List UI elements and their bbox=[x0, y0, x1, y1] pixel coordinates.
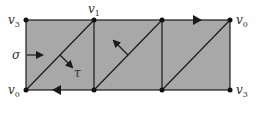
vertex-dot bbox=[228, 88, 233, 93]
vertex-dot bbox=[24, 88, 29, 93]
label-tau: τ bbox=[74, 66, 81, 80]
label-v1-top: v1 bbox=[88, 2, 100, 18]
triangulation-diagram: v3 v1 v0 v0 v3 σ τ bbox=[0, 0, 258, 120]
label-v3-bottom-right: v3 bbox=[236, 83, 248, 99]
vertex-dot bbox=[160, 18, 165, 23]
vertex-dot bbox=[24, 18, 29, 23]
label-sigma: σ bbox=[12, 48, 21, 62]
vertex-dot bbox=[160, 88, 165, 93]
label-v0-bottom-left: v0 bbox=[8, 83, 20, 99]
vertex-dot bbox=[92, 18, 97, 23]
vertex-dot bbox=[228, 18, 233, 23]
vertex-dot bbox=[92, 88, 97, 93]
label-v3-top-left: v3 bbox=[8, 13, 20, 29]
label-v0-top-right: v0 bbox=[236, 13, 248, 29]
